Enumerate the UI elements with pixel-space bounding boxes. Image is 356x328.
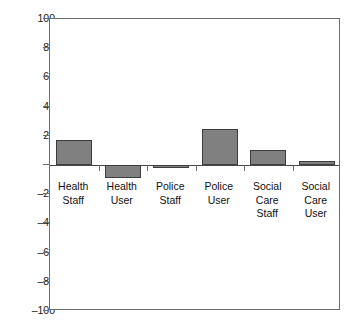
x-category-label: PoliceStaff [146,180,195,207]
bar-chart: 100806040200–20–40–60–80–100 HealthStaff… [0,0,356,328]
x-category-label-line: Health [98,180,147,194]
x-category-label-line: Police [146,180,195,194]
x-category-label-line: User [98,194,147,208]
x-category-label-line: Staff [49,194,98,208]
x-tick-mark [196,165,197,171]
x-tick-mark [147,165,148,171]
x-category-label-line: Staff [243,207,292,221]
bar [56,140,92,165]
x-category-label-line: Staff [146,194,195,208]
x-category-label: SocialCareStaff [243,180,292,221]
x-category-label-line: Social [243,180,292,194]
y-tick-mark [43,310,49,311]
x-category-label-line: Social [292,180,341,194]
x-category-label: HealthStaff [49,180,98,207]
x-tick-mark [99,165,100,171]
x-category-label-line: Care [292,194,341,208]
bar [299,161,335,165]
x-category-label: SocialCareUser [292,180,341,221]
x-category-label-line: Police [195,180,244,194]
bar [105,165,141,178]
x-category-label-line: User [195,194,244,208]
x-category-label: HealthUser [98,180,147,207]
x-tick-mark [293,165,294,171]
x-category-label-line: Care [243,194,292,208]
x-category-label-line: User [292,207,341,221]
bar [250,150,286,165]
bar [153,165,189,168]
plot-area [49,18,340,310]
x-category-label-line: Health [49,180,98,194]
bar [202,129,238,166]
x-category-label: PoliceUser [195,180,244,207]
x-tick-mark [244,165,245,171]
zero-baseline [50,165,339,166]
